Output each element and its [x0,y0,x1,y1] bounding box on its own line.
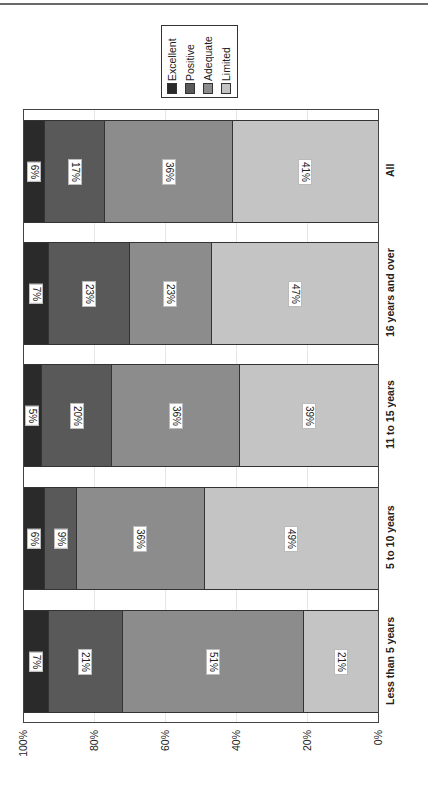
legend-label: Limited [218,29,236,81]
category-label: Less than 5 years [384,609,414,712]
bar-less-than-5-years: 7%21%51%21% [24,610,378,713]
data-label: 17% [68,158,82,184]
bar-segment-adequate: 36% [77,487,204,590]
data-label: 23% [163,280,177,306]
bar-segment-positive: 17% [45,120,105,223]
tick-label-60: 60% [159,730,173,751]
legend-swatch-positive [185,83,195,94]
legend-swatch-excellent [167,83,177,94]
legend-label: Positive [182,29,200,81]
bar-segment-adequate: 36% [105,120,232,223]
bar-segment-excellent: 5% [24,364,42,467]
data-label: 7% [29,651,43,671]
tick-label-20: 20% [301,730,315,751]
bar-all: 6%17%36%41% [24,120,378,223]
data-label: 9% [54,528,68,548]
bar-5-to-10-years: 6%9%36%49% [24,487,378,590]
bar-segment-limited: 41% [233,120,378,223]
legend-item-positive: Positive [182,26,200,97]
category-label: 11 to 15 years [384,363,414,466]
bar-16-years-and-over: 7%23%23%47% [24,242,378,345]
tick-label-40: 40% [230,730,244,751]
data-label: 23% [82,280,96,306]
bar-segment-limited: 21% [304,610,378,713]
legend-swatch-limited [221,83,231,94]
data-label: 36% [169,402,183,428]
data-label: 21% [78,648,92,674]
data-label: 49% [284,525,298,551]
bar-segment-positive: 9% [45,487,77,590]
data-label: 39% [302,402,316,428]
data-label: 6% [27,161,41,181]
bar-segment-limited: 47% [212,242,378,345]
data-label: 51% [206,648,220,674]
bar-segment-adequate: 51% [123,610,304,713]
data-label: 5% [25,405,39,425]
tick-label-100: 100% [17,730,31,757]
data-label: 36% [133,525,147,551]
data-label: 21% [334,648,348,674]
bar-segment-excellent: 7% [24,610,49,713]
bar-segment-adequate: 36% [112,364,239,467]
category-label: 5 to 10 years [384,486,414,589]
data-label: 47% [288,280,302,306]
bar-segment-excellent: 6% [24,487,45,590]
bar-segment-adequate: 23% [130,242,211,345]
bar-segment-limited: 39% [240,364,378,467]
legend-swatch-adequate [203,83,213,94]
chart-legend: Excellent Positive Adequate Limited [161,25,238,98]
legend-item-limited: Limited [218,26,236,97]
category-label: 16 years and over [384,241,414,344]
bar-segment-positive: 23% [49,242,130,345]
tick-label-80: 80% [88,730,102,751]
legend-label: Excellent [164,29,182,81]
plot-area: 6%17%36%41%7%23%23%47%5%20%36%39%6%9%36%… [23,109,379,723]
category-label: All [384,119,414,222]
data-label: 41% [298,158,312,184]
legend-item-excellent: Excellent [164,26,182,97]
bar-segment-excellent: 7% [24,242,49,345]
bar-11-to-15-years: 5%20%36%39% [24,364,378,467]
data-label: 36% [162,158,176,184]
top-rule [0,3,428,5]
bar-segment-excellent: 6% [24,120,45,223]
bar-segment-limited: 49% [205,487,378,590]
bar-segment-positive: 20% [42,364,113,467]
data-label: 20% [70,402,84,428]
tick-label-0: 0% [372,730,386,745]
bar-segment-positive: 21% [49,610,123,713]
legend-item-adequate: Adequate [200,26,218,97]
data-label: 7% [29,283,43,303]
data-label: 6% [27,528,41,548]
legend-label: Adequate [200,29,218,81]
